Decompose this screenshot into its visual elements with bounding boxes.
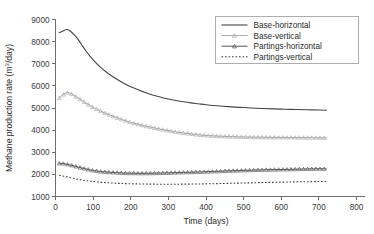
series-base-vertical — [57, 91, 326, 140]
legend-label: Base-horizontal — [254, 21, 311, 30]
legend-label: Base-vertical — [254, 32, 302, 41]
chart-svg: 1000200030004000500060007000800090000100… — [0, 0, 374, 234]
x-axis-title: Time (days) — [183, 216, 228, 226]
y-tick-label: 2000 — [31, 170, 50, 179]
series-partings-horizontal — [57, 161, 326, 174]
y-tick-label: 5000 — [31, 104, 50, 113]
y-tick-label: 3000 — [31, 148, 50, 157]
series-line-path — [59, 175, 326, 184]
y-axis-title-prefix: Methane production rate (m — [4, 66, 14, 172]
x-tick-label: 500 — [237, 203, 251, 212]
series-line-path — [59, 92, 326, 137]
x-tick-label: 700 — [312, 203, 326, 212]
legend-label: Partings-horizontal — [254, 42, 322, 51]
y-tick-label: 1000 — [31, 193, 50, 202]
chart-figure: 1000200030004000500060007000800090000100… — [0, 0, 374, 234]
x-tick-label: 100 — [86, 203, 100, 212]
x-tick-label: 800 — [350, 203, 364, 212]
y-tick-label: 8000 — [31, 38, 50, 47]
legend-label: Partings-vertical — [254, 53, 313, 62]
x-tick-label: 400 — [199, 203, 213, 212]
chart-legend: Base-horizontalBase-verticalPartings-hor… — [216, 17, 359, 64]
y-tick-label: 7000 — [31, 60, 50, 69]
x-tick-label: 600 — [274, 203, 288, 212]
x-tick-label: 300 — [162, 203, 176, 212]
series-partings-vertical — [59, 175, 326, 184]
y-axis-title: Methane production rate (m3/day) — [4, 44, 14, 172]
x-tick-label: 0 — [53, 203, 58, 212]
y-tick-label: 4000 — [31, 126, 50, 135]
y-axis-title-suffix: /day) — [4, 44, 14, 63]
y-tick-label: 6000 — [31, 82, 50, 91]
y-tick-label: 9000 — [31, 16, 50, 25]
x-tick-label: 200 — [124, 203, 138, 212]
